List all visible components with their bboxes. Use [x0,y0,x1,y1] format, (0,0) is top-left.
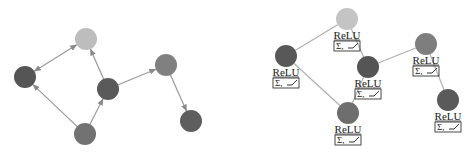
relu-curve-icon [348,43,358,48]
activation-label: ReLU [355,77,382,89]
node-circle [74,123,96,145]
sum-icon: Σ, [337,135,345,145]
left-edge [90,99,103,124]
node-circle [97,78,119,100]
sum-icon: Σ, [336,41,344,51]
right-edge [294,63,340,105]
left-node [180,110,202,132]
right-node: ReLUΣ, [335,102,362,145]
left-graph-nodes [14,28,202,145]
left-node [155,54,177,76]
node-circle [357,56,379,78]
right-node: ReLUΣ, [334,8,361,51]
node-circle [180,110,202,132]
graph-diagram: ReLUΣ,ReLUΣ,ReLUΣ,ReLUΣ,ReLUΣ,ReLUΣ, [0,0,470,157]
left-edge [90,49,103,79]
right-node: ReLUΣ, [413,33,440,76]
left-node [14,66,36,88]
right-edge [378,48,416,63]
left-node [75,28,97,50]
sum-icon: Σ, [437,122,445,132]
right-node: ReLUΣ, [273,45,300,88]
activation-label: ReLU [334,29,361,41]
relu-curve-icon [349,137,359,142]
left-edge [118,69,156,85]
left-edge [33,85,77,127]
left-node [97,78,119,100]
node-circle [415,33,437,55]
node-circle [155,54,177,76]
relu-curve-icon [287,80,297,85]
activation-label: ReLU [335,123,362,135]
sum-icon: Σ, [357,89,365,99]
relu-curve-icon [449,124,459,129]
right-graph-nodes: ReLUΣ,ReLUΣ,ReLUΣ,ReLUΣ,ReLUΣ,ReLUΣ, [273,8,462,145]
activation-label: ReLU [435,110,462,122]
sum-icon: Σ, [415,66,423,76]
right-node: ReLUΣ, [435,89,462,132]
node-circle [437,89,459,111]
sum-icon: Σ, [275,78,283,88]
node-circle [337,102,359,124]
node-circle [275,45,297,67]
node-circle [14,66,36,88]
right-edge [295,25,337,51]
node-circle [75,28,97,50]
right-node: ReLUΣ, [355,56,382,99]
left-node [74,123,96,145]
relu-curve-icon [369,91,379,96]
activation-label: ReLU [273,66,300,78]
left-edge [170,75,186,111]
left-edge [34,45,76,71]
node-circle [336,8,358,30]
activation-label: ReLU [413,54,440,66]
